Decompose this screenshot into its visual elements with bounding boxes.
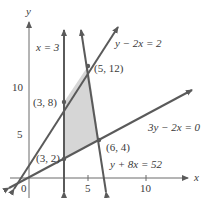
label-x-equals-3: x = 3 — [35, 41, 60, 53]
y-tick-label-5: 5 — [17, 128, 23, 140]
feasible-region-diagram: y x 5 10 10 5 0 x = 3 y − 2x = 2 3y − 2x… — [0, 0, 206, 201]
vertex-6-4 — [97, 138, 101, 142]
y-axis-label: y — [25, 5, 31, 17]
x-tick-label-5: 5 — [85, 182, 91, 194]
vertex-label-5-12: (5, 12) — [94, 62, 124, 75]
vertex-label-3-2: (3, 2) — [36, 152, 60, 165]
label-y-minus-2x-equals-2: y − 2x = 2 — [114, 37, 162, 49]
x-tick-label-10: 10 — [140, 182, 152, 194]
y-tick-label-10: 10 — [12, 81, 24, 93]
x-axis-label: x — [193, 171, 199, 183]
vertex-3-8 — [62, 100, 66, 104]
vertex-5-12 — [86, 64, 90, 68]
label-y-plus-8x-equals-52: y + 8x = 52 — [109, 158, 163, 170]
label-3y-minus-2x-equals-0: 3y − 2x = 0 — [147, 121, 201, 133]
vertex-label-6-4: (6, 4) — [106, 141, 130, 154]
vertex-3-2 — [62, 157, 66, 161]
vertex-label-3-8: (3, 8) — [33, 96, 57, 109]
origin-label: 0 — [21, 182, 27, 194]
